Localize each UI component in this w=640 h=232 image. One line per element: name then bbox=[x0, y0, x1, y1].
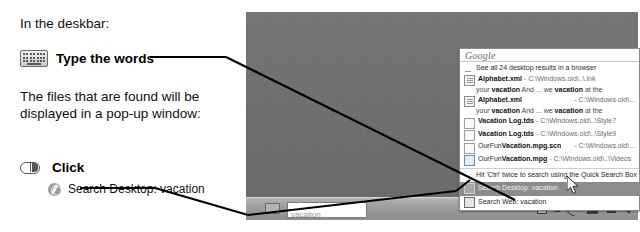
popup-header: Google bbox=[460, 49, 639, 62]
google-desktop-icon bbox=[464, 183, 475, 194]
google-desktop-icon bbox=[48, 183, 61, 196]
instructions-panel: In the deskbar: Type the words The files… bbox=[0, 0, 246, 232]
deskbar-results-popup: Google See all 24 desktop results in a b… bbox=[459, 48, 640, 211]
result-title-text: Alphabet.xml bbox=[478, 96, 522, 103]
google-logo: Google bbox=[465, 50, 496, 61]
file-icon bbox=[464, 118, 475, 129]
result-item[interactable]: Vacation Log.tds - C:\Windows.old\..\Sty… bbox=[460, 116, 639, 129]
document-icon bbox=[464, 96, 475, 107]
see-all-label: See all 24 desktop results in a browser bbox=[476, 64, 635, 73]
result-title-text: Alphabet.xml bbox=[478, 75, 522, 82]
mouse-click-icon bbox=[20, 162, 40, 174]
file-icon bbox=[464, 130, 475, 141]
step-click-row: Click bbox=[20, 160, 84, 175]
deskbar-search-input[interactable] bbox=[287, 202, 367, 218]
mouse-cursor bbox=[567, 176, 580, 195]
result-path: C:\Windows.old\..\Style7 bbox=[540, 117, 616, 124]
click-target-label: Search Desktop: vacation bbox=[68, 182, 205, 196]
step-click-label: Click bbox=[52, 160, 84, 175]
result-title: OurFunVacation.mpg - C:\Windows.old\..\V… bbox=[478, 155, 635, 164]
result-path: C:\Windows.old\..\Style9 bbox=[540, 130, 616, 137]
result-item[interactable]: Alphabet.xml - C:\Windows.old\... your v… bbox=[460, 95, 639, 116]
click-target-row: Search Desktop: vacation bbox=[48, 182, 205, 196]
result-snippet: your vacation And ... we vacation at the bbox=[460, 86, 639, 95]
globe-icon bbox=[464, 197, 475, 208]
deskbar-icon[interactable] bbox=[261, 202, 283, 215]
dash-icon bbox=[464, 65, 473, 74]
result-title: Vacation Log.tds - C:\Windows.old\..\Sty… bbox=[478, 130, 635, 139]
instructions-paragraph: The files that are found will be display… bbox=[20, 88, 235, 122]
document-icon bbox=[464, 75, 475, 86]
result-title: Alphabet.xml bbox=[478, 96, 522, 105]
result-path-right: - C:\Windows.old\... bbox=[574, 96, 635, 105]
intro-text: In the deskbar: bbox=[20, 16, 109, 32]
search-web-action[interactable]: Search Web: vacation bbox=[460, 196, 639, 210]
search-desktop-action[interactable]: Search Desktop: vacation bbox=[460, 182, 639, 196]
step-type-label: Type the words bbox=[56, 51, 154, 66]
keyboard-icon bbox=[20, 50, 48, 67]
file-icon bbox=[464, 143, 475, 154]
result-title: Vacation Log.tds - C:\Windows.old\..\Sty… bbox=[478, 117, 635, 126]
results-list: See all 24 desktop results in a browser … bbox=[460, 62, 639, 210]
result-item[interactable]: Alphabet.xml - C:\Windows.old\..\.lnk yo… bbox=[460, 74, 639, 95]
result-path: C:\Windows.old\..\.lnk bbox=[528, 75, 595, 82]
search-web-label: Search Web: vacation bbox=[478, 198, 635, 207]
search-desktop-label: Search Desktop: vacation bbox=[478, 184, 635, 193]
result-path-right: - C:\Windows.old\... bbox=[574, 142, 635, 151]
step-type-row: Type the words bbox=[20, 50, 154, 67]
result-item[interactable]: OurFunVacation.mpg.scn - C:\Windows.old\… bbox=[460, 141, 639, 154]
video-icon bbox=[464, 155, 475, 166]
result-item[interactable]: Vacation Log.tds - C:\Windows.old\..\Sty… bbox=[460, 129, 639, 142]
see-all-results-row[interactable]: See all 24 desktop results in a browser bbox=[460, 63, 639, 74]
quick-search-hint: Hit 'Ctrl' twice to search using the Qui… bbox=[460, 169, 639, 182]
result-snippet: your vacation And ... we vacation at the bbox=[460, 107, 639, 116]
deskbar-search-field[interactable] bbox=[288, 207, 366, 220]
result-item[interactable]: OurFunVacation.mpg - C:\Windows.old\..\V… bbox=[460, 154, 639, 167]
result-title: Alphabet.xml - C:\Windows.old\..\.lnk bbox=[478, 75, 635, 84]
result-path: C:\Windows.old\..\Videos bbox=[554, 155, 632, 162]
result-title: OurFunVacation.mpg.scn bbox=[478, 142, 561, 151]
